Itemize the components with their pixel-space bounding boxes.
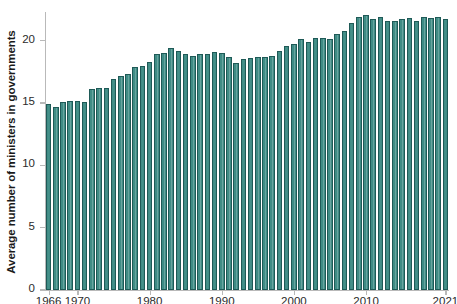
chart-page: Average number of ministers in governmen… — [0, 0, 457, 304]
bar — [320, 38, 326, 290]
x-axis-tick-label: 1970 — [65, 295, 91, 304]
bar — [205, 54, 211, 290]
bar — [356, 17, 362, 290]
bar — [132, 67, 138, 290]
bar — [284, 46, 290, 290]
y-axis-tick-label: 20 — [22, 33, 35, 45]
bar — [428, 18, 434, 290]
bar — [269, 56, 275, 290]
y-axis-tick-label: 10 — [22, 157, 35, 169]
bar — [414, 21, 420, 290]
bar — [104, 88, 110, 290]
bar-series — [45, 12, 449, 290]
x-axis-tick-label: 1990 — [209, 295, 235, 304]
bar — [82, 102, 88, 290]
bar — [399, 19, 405, 290]
bar — [248, 58, 254, 290]
bar — [125, 74, 131, 290]
bar — [241, 59, 247, 290]
bar — [168, 48, 174, 290]
bar — [183, 54, 189, 290]
bar — [140, 66, 146, 290]
bar — [190, 56, 196, 290]
x-axis-tick-label: 2000 — [281, 295, 307, 304]
y-axis-tick-label: 0 — [29, 282, 35, 294]
bar — [306, 42, 312, 290]
bar — [233, 63, 239, 290]
bar — [363, 15, 369, 291]
bar — [118, 76, 124, 290]
y-axis-tick-label: 5 — [29, 220, 35, 232]
bar — [435, 17, 441, 290]
bar — [60, 102, 66, 290]
bar — [421, 17, 427, 290]
x-axis-tick-label: 2021 — [433, 295, 457, 304]
x-axis-tick-label: 1966 — [36, 295, 62, 304]
x-axis-tick-label: 1980 — [137, 295, 163, 304]
bar — [89, 89, 95, 290]
bar — [176, 51, 182, 290]
bar — [161, 53, 167, 290]
bar — [75, 101, 81, 290]
bar — [226, 57, 232, 290]
bar — [443, 19, 449, 290]
bar — [46, 104, 52, 290]
bar — [219, 53, 225, 290]
bar — [327, 39, 333, 290]
bar — [407, 18, 413, 290]
y-axis-tick-label: 15 — [22, 95, 35, 107]
bar — [255, 57, 261, 290]
x-axis-tick-label: 2010 — [353, 295, 379, 304]
bar — [111, 79, 117, 290]
bar — [392, 21, 398, 290]
bar — [262, 57, 268, 290]
bar — [277, 51, 283, 290]
bar — [96, 88, 102, 290]
bar — [385, 21, 391, 290]
bar — [378, 17, 384, 290]
y-axis-title: Average number of ministers in governmen… — [0, 0, 22, 304]
bar — [67, 101, 73, 290]
bar — [147, 62, 153, 290]
bar — [370, 19, 376, 290]
bar — [349, 23, 355, 290]
bar — [212, 52, 218, 290]
bar — [342, 31, 348, 290]
bar — [334, 34, 340, 290]
bar — [53, 107, 59, 290]
bar — [291, 44, 297, 290]
bar — [154, 54, 160, 290]
bar — [298, 39, 304, 290]
bar — [197, 54, 203, 290]
bar — [313, 38, 319, 290]
